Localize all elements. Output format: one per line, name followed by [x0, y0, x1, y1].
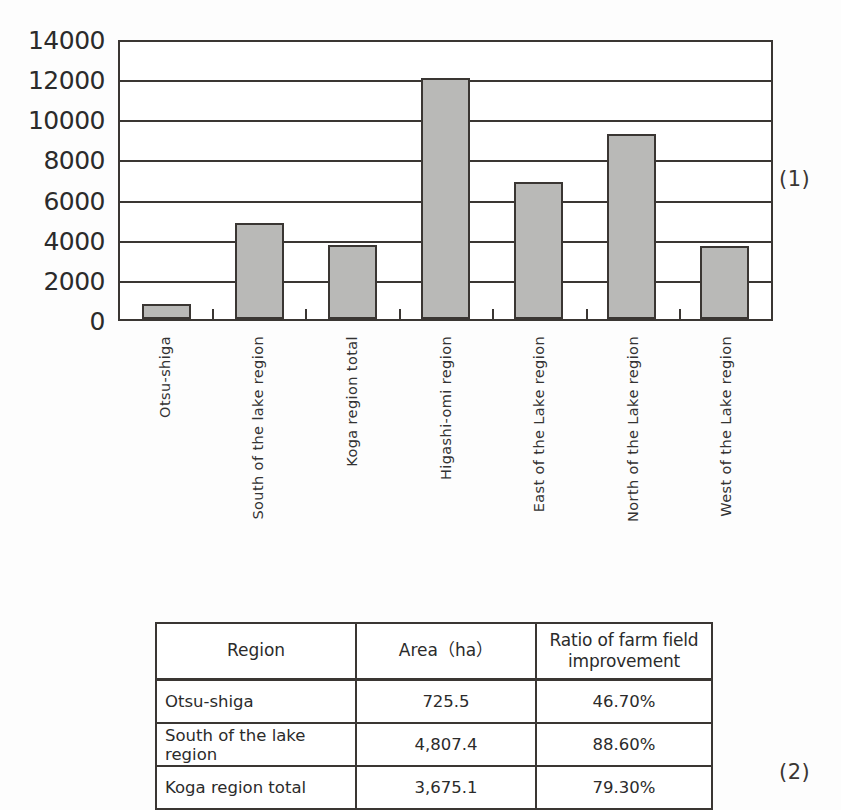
- bar-slot: [585, 42, 678, 319]
- bar-slot: [399, 42, 492, 319]
- cell-region: Koga region total: [156, 766, 356, 809]
- y-axis-tick-label: 0: [90, 309, 105, 334]
- bar-chart-figure: 14000120001000080006000400020000 Otsu-sh…: [0, 0, 841, 600]
- column-header-ratio-line1: Ratio of farm field: [550, 630, 699, 650]
- x-label-slot: North of the Lake region: [586, 330, 680, 570]
- chart-bar: [700, 246, 748, 319]
- table-row: South of the lake region4,807.488.60%: [156, 723, 712, 766]
- x-label-slot: Otsu-shiga: [118, 330, 212, 570]
- y-axis-tick-label: 4000: [43, 228, 105, 253]
- x-label-slot: South of the lake region: [212, 330, 306, 570]
- table-row: Koga region total3,675.179.30%: [156, 766, 712, 809]
- x-axis-tick: [679, 309, 681, 321]
- chart-bar: [235, 223, 283, 319]
- x-axis-ticks: [118, 309, 773, 323]
- cell-area: 725.5: [356, 680, 536, 724]
- y-axis-tick-label: 2000: [43, 268, 105, 293]
- column-header-region: Region: [156, 623, 356, 680]
- chart-bar: [607, 134, 655, 319]
- y-axis-tick-label: 10000: [28, 108, 105, 133]
- cell-ratio: 79.30%: [536, 766, 712, 809]
- x-axis-category-label: East of the Lake region: [531, 336, 547, 512]
- data-table-figure: Region Area（ha） Ratio of farm field impr…: [0, 600, 841, 808]
- chart-bar: [328, 245, 376, 319]
- bar-slot: [213, 42, 306, 319]
- y-axis-tick-label: 6000: [43, 188, 105, 213]
- x-label-slot: East of the Lake region: [492, 330, 586, 570]
- x-axis-tick: [492, 309, 494, 321]
- chart-bar: [421, 78, 469, 319]
- table-body: Otsu-shiga725.546.70%South of the lake r…: [156, 680, 712, 810]
- column-header-ratio-line2: improvement: [568, 651, 680, 671]
- chart-bar: [514, 182, 562, 319]
- cell-ratio: 88.60%: [536, 723, 712, 766]
- y-axis-tick-label: 12000: [28, 68, 105, 93]
- bar-slot: [678, 42, 771, 319]
- x-axis-category-label: North of the Lake region: [625, 336, 641, 522]
- cell-region: Otsu-shiga: [156, 680, 356, 724]
- figure-1-number-label: (1): [779, 167, 810, 191]
- column-header-ratio: Ratio of farm field improvement: [536, 623, 712, 680]
- x-axis-category-label: Koga region total: [344, 336, 360, 467]
- y-axis-tick-label: 14000: [28, 28, 105, 53]
- cell-area: 4,807.4: [356, 723, 536, 766]
- x-axis-tick: [399, 309, 401, 321]
- figure-2-number-label: (2): [779, 760, 810, 784]
- bar-slot: [120, 42, 213, 319]
- x-axis-tick: [586, 309, 588, 321]
- cell-region: South of the lake region: [156, 723, 356, 766]
- column-header-area: Area（ha）: [356, 623, 536, 680]
- chart-bars: [120, 42, 771, 319]
- cell-ratio: 46.70%: [536, 680, 712, 724]
- x-label-slot: Higashi-omi region: [399, 330, 493, 570]
- y-axis-tick-labels: 14000120001000080006000400020000: [0, 36, 105, 320]
- x-axis-category-label: South of the lake region: [250, 336, 266, 520]
- x-axis-category-label: West of the Lake region: [718, 336, 734, 517]
- table-row: Otsu-shiga725.546.70%: [156, 680, 712, 724]
- cell-area: 3,675.1: [356, 766, 536, 809]
- chart-plot-area: [118, 40, 773, 321]
- y-axis-tick-label: 8000: [43, 148, 105, 173]
- x-axis-tick: [212, 309, 214, 321]
- x-axis-category-label: Higashi-omi region: [438, 336, 454, 480]
- bar-slot: [306, 42, 399, 319]
- region-area-ratio-table: Region Area（ha） Ratio of farm field impr…: [155, 622, 713, 810]
- x-label-slot: Koga region total: [305, 330, 399, 570]
- table-header-row: Region Area（ha） Ratio of farm field impr…: [156, 623, 712, 680]
- x-axis-tick: [305, 309, 307, 321]
- bar-slot: [492, 42, 585, 319]
- x-axis-category-labels: Otsu-shigaSouth of the lake regionKoga r…: [118, 330, 773, 570]
- x-axis-category-label: Otsu-shiga: [157, 336, 173, 418]
- table-header: Region Area（ha） Ratio of farm field impr…: [156, 623, 712, 680]
- x-label-slot: West of the Lake region: [679, 330, 773, 570]
